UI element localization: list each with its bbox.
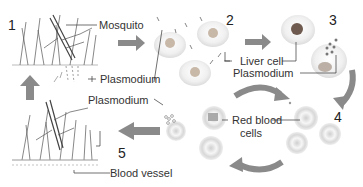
- plasmodium-label-step5: Plasmodium: [88, 94, 149, 106]
- step-1-number: 1: [8, 18, 16, 32]
- diagram-canvas: [0, 0, 363, 187]
- step-5-number: 5: [118, 146, 126, 160]
- plasmodium-label-step3: Plasmodium: [233, 67, 294, 79]
- red-blood-cells-group: [199, 102, 341, 160]
- red-blood-cells-label-line1: Red blood: [232, 114, 282, 126]
- arrow-step4-to-5: [118, 122, 160, 140]
- liver-cell-label: Liver cell: [240, 55, 283, 67]
- arrow-step1-to-2: [118, 35, 145, 51]
- arrow-step5-to-1: [20, 75, 40, 100]
- cycle-arrow-top: [235, 87, 280, 96]
- rbc-release-group: [165, 115, 186, 141]
- step-2-number: 2: [226, 13, 234, 27]
- mosquito-feeding-illustration: [12, 100, 98, 165]
- liver-cells-group: [154, 17, 229, 86]
- red-blood-cells-label-line2: cells: [240, 127, 262, 139]
- mosquito-label: Mosquito: [99, 19, 144, 31]
- plasmodium-label-step1: Plasmodium: [100, 73, 161, 85]
- step-3-number: 3: [329, 13, 337, 27]
- step-4-number: 4: [334, 110, 342, 124]
- cycle-arrow-bottom: [238, 162, 282, 170]
- blood-vessel-label: Blood vessel: [110, 167, 172, 179]
- arrow-step2-to-3: [245, 34, 271, 50]
